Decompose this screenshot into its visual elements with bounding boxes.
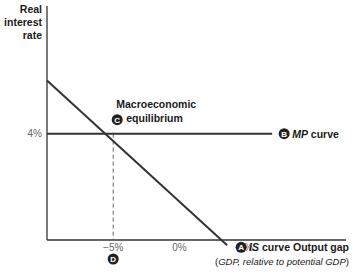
svg-text:B: B bbox=[281, 130, 287, 139]
badge-a: A bbox=[236, 242, 247, 253]
svg-text:D: D bbox=[110, 255, 116, 264]
badge-d: D bbox=[108, 254, 119, 265]
xlabel-sub: (GDP, relative to potential GDP) bbox=[215, 256, 349, 267]
equilibrium-label-line-2: equilibrium bbox=[126, 112, 183, 124]
mp-curve-label: MP curve bbox=[292, 128, 339, 140]
x-tick-label: 0% bbox=[172, 242, 187, 253]
chart: Real interest rate 4% −5% 0% 5% Output g… bbox=[0, 0, 353, 277]
y-tick-label: 4% bbox=[28, 128, 43, 139]
is-curve-label: IS curve bbox=[249, 241, 290, 253]
x-tick-label: −5% bbox=[103, 242, 123, 253]
badge-c: C bbox=[112, 114, 123, 125]
ylabel-line-2: interest bbox=[4, 16, 42, 28]
svg-text:C: C bbox=[114, 116, 120, 125]
svg-text:A: A bbox=[238, 243, 244, 252]
xlabel: Output gap bbox=[293, 241, 349, 253]
ylabel-line-3: rate bbox=[23, 29, 42, 41]
ylabel-line-1: Real bbox=[20, 3, 42, 15]
badge-b: B bbox=[279, 128, 290, 139]
equilibrium-label-line-1: Macroeconomic bbox=[116, 98, 196, 110]
